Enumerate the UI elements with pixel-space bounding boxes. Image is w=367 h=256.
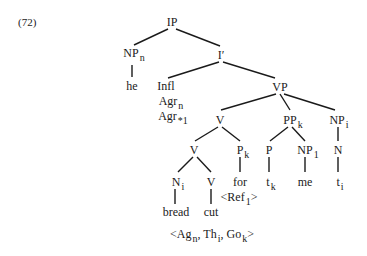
node-n-i: Ni (172, 176, 184, 189)
word-cut: cut (204, 206, 219, 218)
node-np-n: NPn (123, 47, 144, 60)
node-v-mid: V (190, 144, 199, 156)
word-for: for (233, 176, 247, 188)
node-p-k: Pk (237, 144, 250, 157)
node-vp: VP (272, 81, 287, 93)
node-v-upper: V (216, 114, 225, 126)
node-np-1: NP1 (297, 144, 318, 157)
node-p: P (266, 144, 273, 156)
node-ip: IP (167, 16, 178, 28)
trace-t-k: tk (266, 176, 275, 189)
node-i-bar: I′ (218, 49, 225, 61)
theta-grid: <Agn, Thi, Gok> (170, 228, 254, 241)
trace-t-i: ti (336, 176, 343, 189)
node-infl: Infl (157, 80, 174, 92)
node-pp-k: PPk (283, 114, 302, 127)
feature-agr-star1: Agr*1 (158, 110, 188, 123)
word-bread: bread (163, 206, 190, 218)
feature-agr-n: Agrn (159, 95, 184, 108)
word-me: me (298, 176, 313, 188)
word-he: he (126, 80, 137, 92)
node-v-lower: V (207, 176, 216, 188)
node-np-i: NPi (329, 114, 348, 127)
node-n: N (334, 144, 343, 156)
ref-annotation: <Ref1> (221, 191, 258, 204)
